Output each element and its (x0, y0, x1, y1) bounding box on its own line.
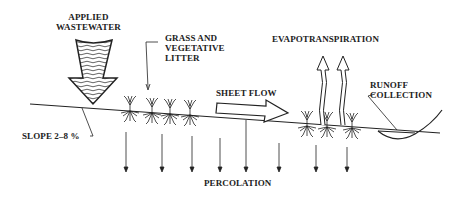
label-percolation: PERCOLATION (204, 178, 271, 188)
label-runoff-collection: RUNOFF COLLECTION (370, 80, 432, 100)
slope-pointer-line (82, 108, 93, 136)
label-evapotranspiration: EVAPOTRANSPIRATION (272, 34, 379, 44)
label-sheet-flow: SHEET FLOW (216, 88, 277, 98)
grass-pointer-line (146, 42, 158, 90)
evapotranspiration-arrows (317, 56, 349, 125)
label-grass-vegetative-litter: GRASS AND VEGETATIVE LITTER (165, 33, 225, 63)
applied-wastewater-arrow (69, 40, 117, 104)
label-slope: SLOPE 2–8 % (22, 131, 80, 141)
sheet-flow-arrow (216, 100, 288, 122)
runoff-collection-basin (378, 110, 442, 139)
label-applied-wastewater: APPLIED WASTEWATER (56, 12, 121, 32)
